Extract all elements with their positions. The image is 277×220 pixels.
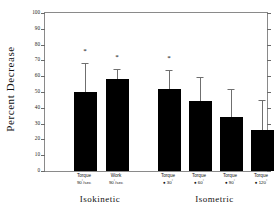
y-axis-tick (41, 13, 45, 14)
category-label-line2: ● 90° (223, 180, 237, 186)
y-axis-tick-label: 20 (35, 137, 40, 142)
significance-marker: * (83, 48, 87, 55)
y-axis-tick (41, 124, 45, 125)
bar (74, 92, 97, 171)
category-label-line2: ● 120° (254, 180, 268, 186)
y-axis-tick-mirror (267, 45, 271, 46)
y-axis-tick-label: 30 (35, 121, 40, 126)
x-axis-category-label: Torque● 60° (192, 173, 206, 186)
y-axis-tick-label: 0 (37, 168, 40, 173)
error-bar-cap (259, 100, 266, 101)
y-axis-tick-mirror (267, 76, 271, 77)
error-bar (117, 70, 118, 79)
x-axis-category-label: Torque● 90° (223, 173, 237, 186)
bar (251, 130, 274, 171)
bar (189, 101, 212, 171)
category-label-unit: /sec (115, 180, 123, 185)
y-axis-tick-label: 90 (35, 26, 40, 31)
y-axis-tick-mirror (267, 60, 271, 61)
y-axis-tick (41, 171, 45, 172)
x-axis-group-label: Isokinetic (80, 194, 121, 204)
y-axis-tick-label: 50 (35, 89, 40, 94)
y-axis-tick-mirror (267, 124, 271, 125)
y-axis-tick (41, 29, 45, 30)
category-label-line2: ● 30° (161, 180, 175, 186)
y-axis-tick-mirror (267, 92, 271, 93)
y-axis-tick-mirror (267, 108, 271, 109)
y-axis-tick (41, 92, 45, 93)
y-axis-tick-label: 70 (35, 58, 40, 63)
y-axis-tick-label: 10 (35, 153, 40, 158)
category-label-line2: ● 60° (192, 180, 206, 186)
error-bar-cap (197, 77, 204, 78)
error-bar-cap (166, 70, 173, 71)
bar (106, 79, 129, 171)
y-axis-tick-label: 40 (35, 105, 40, 110)
error-bar (231, 90, 232, 117)
x-axis-group-label: Isometric (195, 194, 234, 204)
error-bar (200, 78, 201, 102)
error-bar-cap (82, 63, 89, 64)
y-axis-tick (41, 108, 45, 109)
y-axis-title-container: Percent Decrease (0, 0, 20, 178)
category-label-value: ● 60 (194, 180, 203, 185)
x-axis-category-label: Work90°/sec (109, 173, 123, 186)
category-label-value: ● 120 (255, 180, 266, 185)
y-axis-title: Percent Decrease (4, 46, 16, 132)
degree-symbol: ° (234, 178, 235, 182)
error-bar-cap (114, 69, 121, 70)
y-axis-tick (41, 45, 45, 46)
error-bar (85, 64, 86, 92)
bar (220, 117, 243, 171)
category-label-line2: 90°/sec (109, 180, 123, 186)
x-axis-category-label: Torque● 120° (254, 173, 268, 186)
category-label-value: ● 90 (225, 180, 234, 185)
category-label-line1: Torque (77, 173, 91, 178)
error-bar (169, 71, 170, 88)
category-label-line2: 90°/sec (77, 180, 91, 186)
y-axis-tick-label: 80 (35, 42, 40, 47)
y-axis-tick-label: 60 (35, 74, 40, 79)
y-axis-tick-label: 100 (32, 10, 40, 15)
category-label-line1: Work (111, 173, 122, 178)
error-bar (262, 101, 263, 129)
degree-symbol: ° (172, 178, 173, 182)
significance-marker: * (167, 55, 171, 62)
y-axis-tick (41, 60, 45, 61)
y-axis-tick-mirror (267, 29, 271, 30)
category-label-value: ● 30 (163, 180, 172, 185)
plot-area: 0102030405060708090100*** (44, 12, 268, 172)
degree-symbol: ° (203, 178, 204, 182)
y-axis-tick (41, 76, 45, 77)
x-axis-category-label: Torque● 30° (161, 173, 175, 186)
figure-bar-chart: Percent Decrease 0102030405060708090100*… (0, 0, 277, 220)
category-label-unit: /sec (83, 180, 91, 185)
bar (158, 89, 181, 171)
significance-marker: * (115, 54, 119, 61)
degree-symbol: ° (266, 178, 267, 182)
y-axis-tick-mirror (267, 171, 271, 172)
y-axis-tick (41, 139, 45, 140)
y-axis-tick (41, 155, 45, 156)
x-axis-category-label: Torque90°/sec (77, 173, 91, 186)
y-axis-tick-mirror (267, 13, 271, 14)
error-bar-cap (228, 89, 235, 90)
